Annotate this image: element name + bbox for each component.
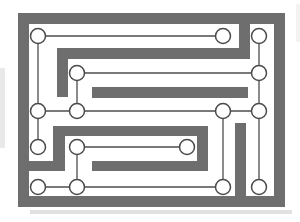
node-f xyxy=(31,104,46,119)
wall-outer-border-right xyxy=(274,13,285,207)
artifact-top-right-edge-smudge xyxy=(296,4,300,42)
wall-spiral-bottom-right xyxy=(92,161,208,171)
node-d xyxy=(70,66,85,81)
node-a xyxy=(31,29,46,44)
node-c xyxy=(252,29,267,44)
node-b xyxy=(216,29,231,44)
node-g xyxy=(70,104,85,119)
node-h xyxy=(216,104,231,119)
wall-outer-border-top xyxy=(18,13,285,24)
node-p xyxy=(252,180,267,195)
wall-outer-border-left xyxy=(18,13,29,207)
wall-spiral-top xyxy=(53,126,208,136)
wall-hook-descender-left xyxy=(57,48,68,97)
node-k xyxy=(70,140,85,155)
node-i xyxy=(252,104,267,119)
wall-mid-bar xyxy=(92,87,248,98)
wall-hook-horizontal xyxy=(57,48,250,59)
node-j xyxy=(31,140,46,155)
node-n xyxy=(70,180,85,195)
screenshot-root xyxy=(0,0,300,222)
node-m xyxy=(31,180,46,195)
node-l xyxy=(180,140,195,155)
node-o xyxy=(216,180,231,195)
wall-right-lower-vertical-bar xyxy=(235,123,246,201)
artifact-bottom-shadow-strip xyxy=(30,210,292,214)
artifact-left-margin-smudge xyxy=(0,68,5,148)
maze-circuit-diagram xyxy=(0,0,300,222)
node-e xyxy=(252,66,267,81)
